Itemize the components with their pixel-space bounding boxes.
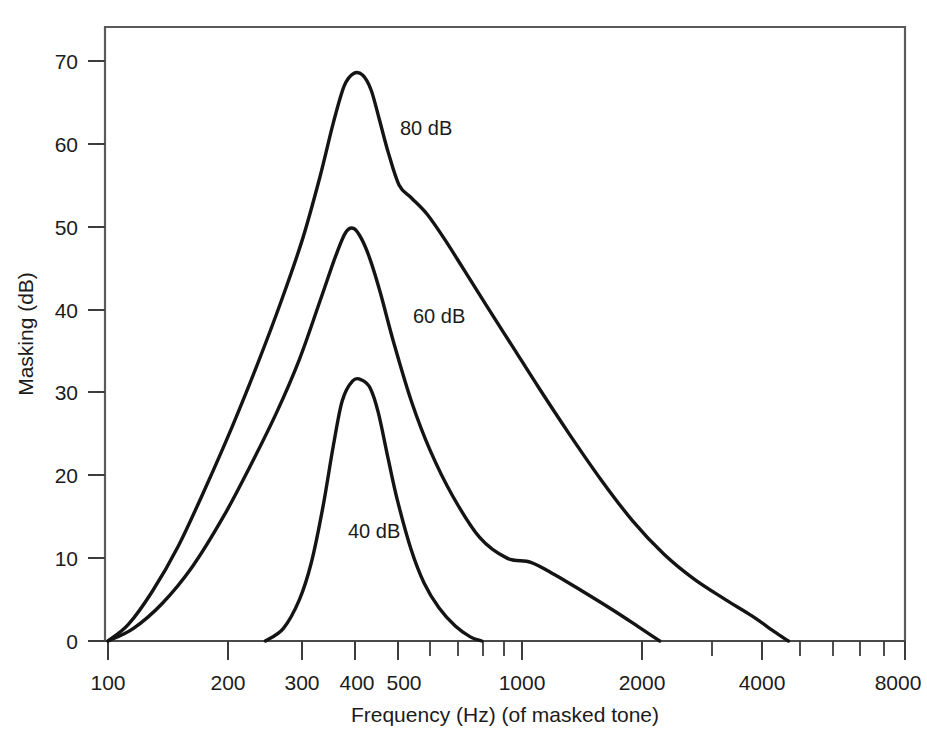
curve-40db — [265, 379, 481, 641]
chart-canvas: 100 200 300 400 500 1000 2000 4000 8000 … — [0, 0, 927, 729]
x-tick-label-500: 500 — [386, 671, 421, 694]
x-tick-labels: 100 200 300 400 500 1000 2000 4000 8000 — [90, 671, 921, 694]
x-tick-label-2000: 2000 — [619, 671, 666, 694]
curve-label-40db: 40 dB — [348, 520, 400, 542]
y-tick-label-60: 60 — [55, 133, 78, 156]
x-tick-label-4000: 4000 — [739, 671, 786, 694]
x-tick-label-200: 200 — [210, 671, 245, 694]
x-axis-ticks — [108, 641, 905, 660]
y-tick-label-30: 30 — [55, 381, 78, 404]
curve-label-60db: 60 dB — [413, 305, 465, 327]
curve-80db — [108, 72, 788, 641]
x-tick-label-300: 300 — [284, 671, 319, 694]
y-tick-label-20: 20 — [55, 464, 78, 487]
y-tick-labels: 0 10 20 30 40 50 60 70 — [55, 50, 78, 653]
x-tick-label-1000: 1000 — [499, 671, 546, 694]
curve-annotations: 80 dB 60 dB 40 dB — [348, 117, 465, 542]
y-axis-title: Masking (dB) — [14, 272, 37, 396]
x-tick-label-100: 100 — [90, 671, 125, 694]
data-curves — [108, 72, 788, 641]
y-tick-label-40: 40 — [55, 299, 78, 322]
y-tick-label-70: 70 — [55, 50, 78, 73]
y-tick-label-0: 0 — [66, 630, 78, 653]
y-tick-label-10: 10 — [55, 547, 78, 570]
y-tick-label-50: 50 — [55, 216, 78, 239]
curve-label-80db: 80 dB — [400, 117, 452, 139]
x-axis-title: Frequency (Hz) (of masked tone) — [351, 703, 659, 726]
masking-curve-figure: 100 200 300 400 500 1000 2000 4000 8000 … — [0, 0, 927, 729]
x-tick-label-400: 400 — [339, 671, 374, 694]
y-axis-ticks — [88, 61, 105, 641]
x-tick-label-8000: 8000 — [875, 671, 922, 694]
